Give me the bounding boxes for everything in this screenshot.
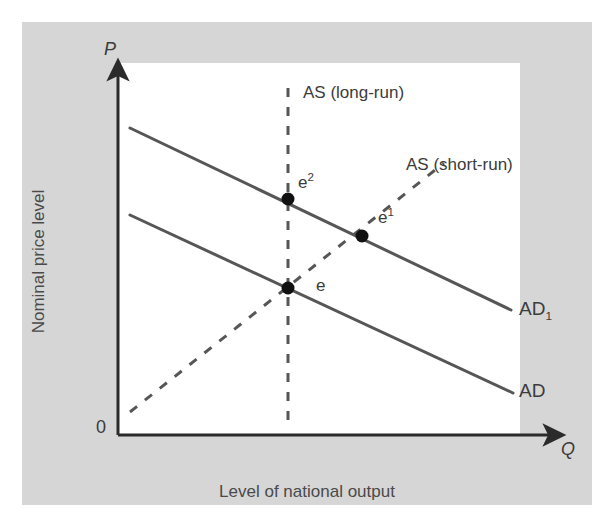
- ad1-label-text: AD: [519, 298, 545, 319]
- point-e1: [356, 230, 369, 243]
- x-axis-symbol: Q: [561, 440, 575, 458]
- ad1-label: AD1: [519, 299, 552, 322]
- ad-label: AD: [519, 381, 545, 400]
- point-e2-label-superscript: 2: [307, 171, 313, 183]
- chart-svg: [0, 0, 614, 527]
- figure-container: AS (long-run) AS (short-run) AD1 AD e2 e…: [0, 0, 614, 527]
- point-e1-label-superscript: 1: [387, 206, 393, 218]
- point-e-label: e: [316, 277, 325, 294]
- ad-curve: [130, 215, 513, 393]
- y-axis-symbol: P: [104, 40, 116, 58]
- origin-label: 0: [96, 418, 106, 436]
- y-axis-title: Nominal price level: [30, 162, 47, 362]
- point-e2-label: e2: [298, 172, 314, 191]
- ad1-label-subscript: 1: [545, 309, 552, 322]
- point-e: [282, 282, 295, 295]
- x-axis-title: Level of national output: [0, 483, 614, 500]
- point-e1-label: e1: [378, 207, 394, 226]
- point-e2: [282, 193, 295, 206]
- as-short-run-label: AS (short-run): [406, 156, 513, 173]
- as-long-run-label: AS (long-run): [303, 84, 404, 101]
